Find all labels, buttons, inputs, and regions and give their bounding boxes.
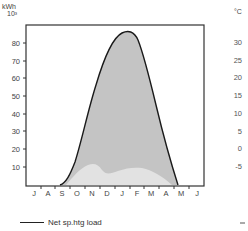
y-tick-label: 70 bbox=[4, 57, 20, 66]
y-tick-label: 60 bbox=[4, 74, 20, 83]
month-label: D bbox=[102, 189, 112, 198]
month-label: A bbox=[161, 189, 171, 198]
y-tick-label: 10 bbox=[4, 163, 20, 172]
y2-tick-label: 15 bbox=[228, 91, 242, 100]
y2-tick-label: 0 bbox=[228, 144, 242, 153]
month-label: S bbox=[57, 189, 67, 198]
y2-tick-label: 5 bbox=[228, 127, 242, 136]
y2-tick-label: -5 bbox=[228, 162, 242, 171]
y-tick-label: 40 bbox=[4, 110, 20, 119]
y2-tick-label: 20 bbox=[228, 73, 242, 82]
y-tick-label: 20 bbox=[4, 145, 20, 154]
month-label: J bbox=[29, 189, 39, 198]
month-label: M bbox=[146, 189, 156, 198]
month-label: F bbox=[132, 189, 142, 198]
legend: Net sp.htg load bbox=[20, 218, 102, 227]
legend-label: Net sp.htg load bbox=[48, 218, 102, 227]
month-label: A bbox=[43, 189, 53, 198]
y-tick-label: 80 bbox=[4, 39, 20, 48]
month-label: J bbox=[192, 189, 202, 198]
y2-tick-label: 10 bbox=[228, 109, 242, 118]
y-tick-label: 50 bbox=[4, 92, 20, 101]
month-label: N bbox=[87, 189, 97, 198]
y2-tick-label: 25 bbox=[228, 56, 242, 65]
net-heating-area bbox=[60, 31, 178, 185]
month-label: M bbox=[176, 189, 186, 198]
month-label: O bbox=[72, 189, 82, 198]
month-label: J bbox=[117, 189, 127, 198]
y2-tick-label: 30 bbox=[228, 38, 242, 47]
y-tick-label: 30 bbox=[4, 127, 20, 136]
legend-line-swatch bbox=[20, 222, 44, 223]
